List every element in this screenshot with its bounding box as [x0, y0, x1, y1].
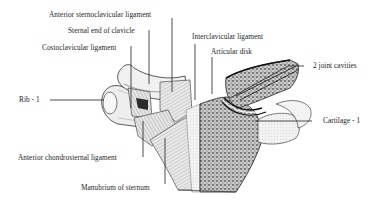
label-joint-cavities: 2 joint cavities: [313, 62, 357, 69]
label-rib-1: Rib - 1: [19, 96, 40, 103]
label-anterior-chondrosternal-ligament: Anterior chondrosternal ligament: [18, 154, 117, 161]
label-manubrium-of-sternum: Manubrium of sternum: [81, 184, 150, 191]
label-costoclavicular-ligament: Costoclavicular ligament: [42, 44, 116, 51]
label-articular-disk: Articular disk: [211, 48, 252, 55]
sternoclavicular-joint-illustration: [0, 0, 391, 204]
manubrium-section-shape: [200, 97, 262, 192]
label-anterior-sternoclavicular-ligament: Anterior sternoclavicular ligament: [49, 11, 151, 18]
label-sternal-end-of-clavicle: Sternal end of clavicle: [68, 27, 135, 34]
cartilage-1-shape: [258, 101, 311, 145]
label-interclavicular-ligament: Interclavicular ligament: [192, 33, 263, 40]
label-cartilage-1: Cartilage - 1: [323, 117, 360, 124]
